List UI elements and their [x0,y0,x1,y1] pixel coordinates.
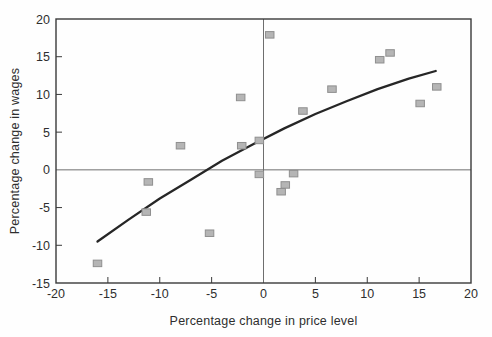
y-tick-label: 5 [43,126,50,140]
wages-price-scatter-figure: -20-15-10-505101520-15-10-505101520 Perc… [0,0,492,337]
data-point [289,170,298,177]
data-point [299,108,308,115]
y-tick-label: 0 [43,163,50,177]
data-point [205,230,214,237]
x-tick-label: 20 [464,287,478,301]
data-point [328,86,337,93]
x-tick-label: 5 [312,287,319,301]
y-tick-label: 15 [36,50,50,64]
data-point [277,188,286,195]
x-axis-title: Percentage change in price level [56,314,471,328]
data-point [236,94,245,101]
x-tick-label: -15 [99,287,117,301]
y-tick-label: -5 [39,201,50,215]
y-axis-title: Percentage change in wages [8,68,22,234]
x-tick-label: -5 [206,287,217,301]
y-tick-label: 10 [36,88,50,102]
x-tick-label: 10 [360,287,374,301]
trend-line [98,71,436,242]
data-point [416,100,425,107]
y-tick-label: 20 [36,13,50,27]
data-point [433,84,442,91]
data-point [281,182,290,189]
data-point [144,179,153,186]
data-point [142,209,151,216]
data-point [265,32,274,39]
data-point [386,50,395,57]
x-tick-label: -10 [151,287,169,301]
data-point [237,142,246,149]
data-point [93,260,102,267]
data-point [375,56,384,63]
y-tick-label: -15 [32,277,50,291]
x-tick-label: 15 [412,287,426,301]
x-tick-label: 0 [260,287,267,301]
data-point [176,142,185,149]
scatter-chart-canvas: -20-15-10-505101520-15-10-505101520 [0,0,492,337]
data-point [255,137,264,144]
data-point [255,171,264,178]
y-tick-label: -10 [32,239,50,253]
